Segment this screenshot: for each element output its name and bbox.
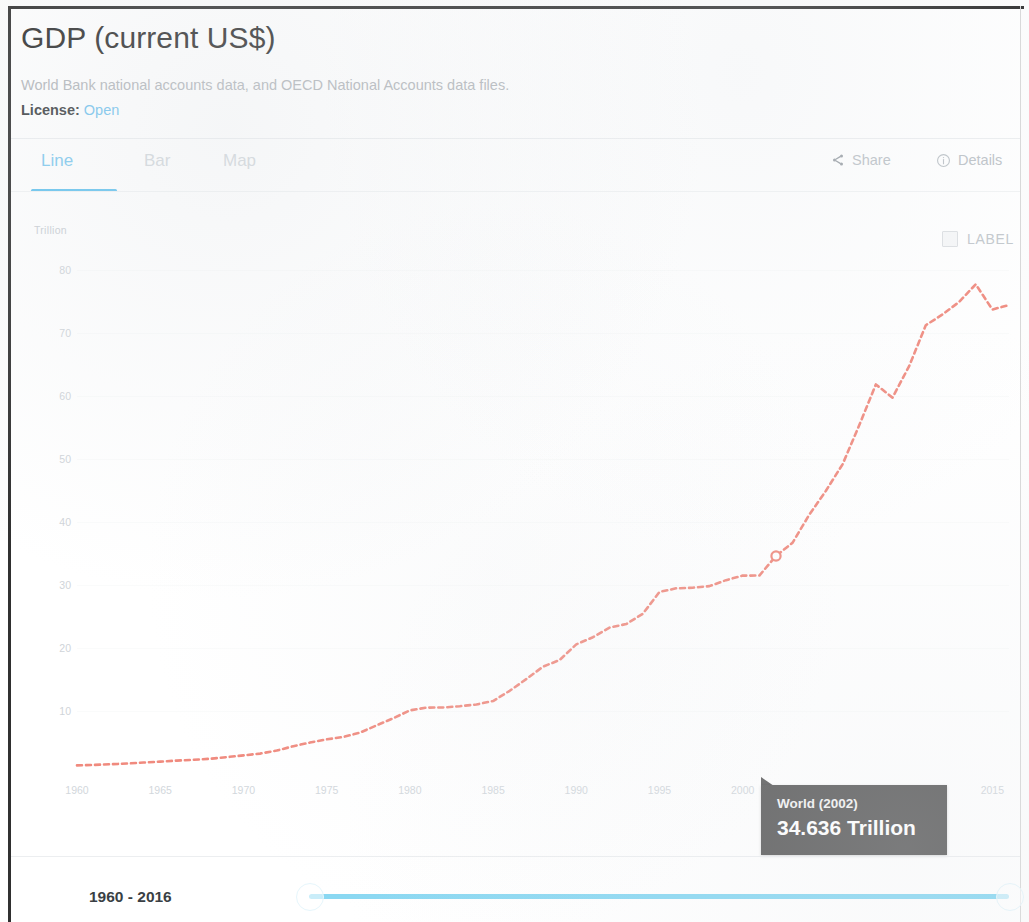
tooltip-value: 34.636 Trillion: [777, 816, 916, 840]
page-border-right: [1020, 6, 1021, 922]
tab-line[interactable]: Line: [41, 151, 73, 171]
data-tooltip: World (2002) 34.636 Trillion: [761, 785, 947, 855]
info-icon: [936, 153, 951, 168]
line-chart: Trillion 8070605040302010 19601965197019…: [11, 199, 1020, 819]
share-button[interactable]: Share: [831, 152, 891, 168]
gdp-series-line: [77, 284, 1009, 765]
indicator-card: GDP (current US$) World Bank national ac…: [11, 9, 1020, 922]
tooltip-title: World (2002): [777, 796, 858, 811]
page-title: GDP (current US$): [21, 21, 276, 55]
chart-type-tabs: Line Bar Map Share: [11, 139, 1020, 199]
year-range-handle-end[interactable]: [996, 883, 1024, 911]
share-label: Share: [852, 152, 891, 168]
license-label: License:: [21, 102, 80, 118]
tab-bar[interactable]: Bar: [144, 151, 170, 171]
details-button[interactable]: Details: [936, 152, 1002, 168]
chart-plot-area: [11, 199, 1020, 819]
license-line: License:Open: [21, 102, 119, 118]
details-label: Details: [958, 152, 1002, 168]
data-source-text: World Bank national accounts data, and O…: [21, 77, 509, 93]
scanned-page: GDP (current US$) World Bank national ac…: [0, 0, 1029, 922]
share-icon: [831, 153, 845, 167]
tab-map[interactable]: Map: [223, 151, 256, 171]
year-range-handle-start[interactable]: [296, 883, 324, 911]
footer-divider: [11, 856, 1020, 857]
year-range-label: 1960 - 2016: [89, 888, 172, 906]
license-link[interactable]: Open: [84, 102, 119, 118]
tabbar-divider: [11, 191, 1020, 192]
year-range-track[interactable]: [309, 894, 1009, 899]
highlighted-data-point[interactable]: [771, 551, 780, 560]
